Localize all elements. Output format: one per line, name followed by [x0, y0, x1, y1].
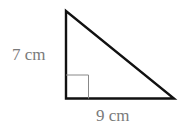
horizontal-side-label: 9 cm: [96, 106, 130, 125]
right-triangle: [66, 11, 174, 99]
vertical-side-label: 7 cm: [12, 45, 46, 64]
right-angle-marker: [66, 75, 89, 99]
triangle-diagram: 7 cm 9 cm: [0, 0, 183, 134]
